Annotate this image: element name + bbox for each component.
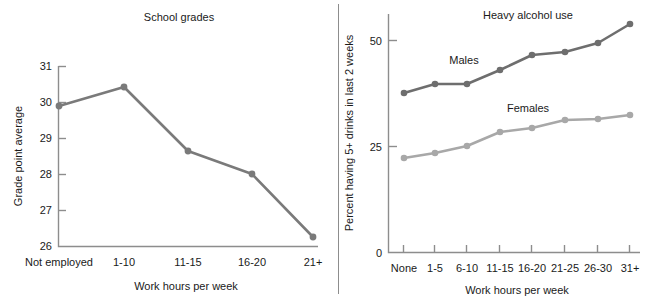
data-point — [562, 49, 569, 56]
data-point — [529, 125, 536, 132]
data-point — [529, 52, 536, 59]
data-point — [401, 155, 408, 162]
x-tick-label-31-plus: 31+ — [621, 262, 640, 274]
y-tick-label-50: 50 — [370, 35, 382, 47]
x-tick-label-26-30: 26-30 — [584, 262, 612, 274]
axes-lines-right — [389, 14, 641, 253]
x-tick-label-21-plus: 21+ — [304, 256, 323, 268]
data-point — [595, 40, 602, 47]
x-tick-label-not-employed: Not employed — [25, 256, 93, 268]
data-point — [464, 143, 471, 150]
y-tick-label-31: 31 — [40, 60, 52, 72]
data-point — [595, 116, 602, 123]
data-points-gpa — [56, 84, 317, 241]
data-point — [121, 84, 128, 91]
series-label-females: Females — [507, 102, 550, 114]
chart-panel-school-grades: School grades 31 30 29 28 27 26 Grade po… — [0, 0, 340, 305]
y-ticks-left — [59, 67, 67, 211]
x-tick-label-11-15: 11-15 — [486, 262, 513, 274]
data-point — [497, 67, 504, 74]
heavy-alcohol-use-svg: Heavy alcohol use 50 25 0 Percent having… — [340, 0, 657, 305]
chart-title-heavy-alcohol-use: Heavy alcohol use — [483, 9, 573, 21]
data-point — [249, 171, 256, 178]
x-tick-label-1-5: 1-5 — [427, 262, 443, 274]
y-tick-label-0: 0 — [376, 247, 382, 259]
x-ticks-right — [404, 245, 630, 253]
y-tick-label-26: 26 — [40, 240, 52, 252]
line-series-gpa — [59, 87, 313, 237]
school-grades-svg: School grades 31 30 29 28 27 26 Grade po… — [0, 0, 340, 305]
data-point — [627, 112, 634, 119]
data-point — [432, 81, 439, 88]
x-axis-title-left: Work hours per week — [134, 280, 238, 292]
x-tick-label-16-20: 16-20 — [238, 256, 266, 268]
y-tick-label-28: 28 — [40, 168, 52, 180]
figure-container: School grades 31 30 29 28 27 26 Grade po… — [0, 0, 657, 305]
x-tick-label-16-20: 16-20 — [518, 262, 546, 274]
x-tick-label-21-25: 21-25 — [551, 262, 579, 274]
y-tick-label-25: 25 — [370, 141, 382, 153]
x-tick-label-6-10: 6-10 — [456, 262, 478, 274]
y-axis-title-right: Percent having 5+ drinks in last 2 weeks — [343, 34, 355, 231]
x-tick-label-1-10: 1-10 — [113, 256, 135, 268]
data-point — [464, 81, 471, 88]
data-points-males — [401, 21, 634, 97]
data-point — [401, 90, 408, 97]
x-tick-label-11-15: 11-15 — [174, 256, 201, 268]
y-tick-label-29: 29 — [40, 132, 52, 144]
chart-panel-heavy-alcohol-use: Heavy alcohol use 50 25 0 Percent having… — [340, 0, 657, 305]
x-axis-title-right: Work hours per week — [465, 284, 569, 296]
y-tick-label-30: 30 — [40, 96, 52, 108]
y-axis-title-left: Grade point average — [12, 106, 24, 206]
data-point — [310, 234, 317, 241]
data-point — [562, 117, 569, 124]
data-point — [432, 150, 439, 157]
y-tick-label-27: 27 — [40, 204, 52, 216]
data-point — [497, 129, 504, 136]
chart-title-school-grades: School grades — [144, 11, 215, 23]
data-point — [185, 148, 192, 155]
y-ticks-right — [389, 41, 398, 147]
x-tick-label-none: None — [391, 262, 417, 274]
axes-lines-left — [59, 66, 319, 247]
data-points-females — [401, 112, 634, 162]
data-point — [56, 103, 63, 110]
series-label-males: Males — [449, 54, 479, 66]
data-point — [627, 21, 634, 28]
